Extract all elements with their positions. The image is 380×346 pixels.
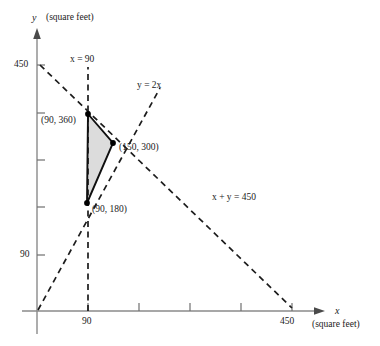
- y-axis-ticks: [37, 65, 45, 255]
- equation-label-x-equals-90: x = 90: [70, 55, 94, 65]
- x-axis-label: x: [335, 306, 339, 316]
- y-axis-unit-label: (square feet): [46, 13, 94, 23]
- y-tick-label-450: 450: [14, 60, 28, 70]
- x-axis-arrowhead: [314, 307, 325, 315]
- vertex-dot-90-180: [84, 200, 90, 206]
- x-axis-ticks: [88, 303, 292, 311]
- x-axis-unit-label: (square feet): [312, 320, 360, 330]
- vertex-label-150-300: (150, 300): [119, 143, 159, 153]
- figure-root: y (square feet) x (square feet) 450 90 9…: [0, 0, 380, 346]
- equation-label-x-plus-y-equals-450: x + y = 450: [212, 193, 256, 203]
- x-tick-label-90: 90: [82, 317, 92, 327]
- vertex-dot-150-300: [110, 140, 116, 146]
- y-tick-label-90: 90: [20, 250, 30, 260]
- vertex-label-90-360: (90, 360): [41, 116, 76, 126]
- coordinate-plot: [0, 0, 380, 346]
- vertex-label-90-180: (90, 180): [92, 205, 127, 215]
- equation-label-y-equals-2x: y = 2x: [137, 81, 161, 91]
- y-axis-label: y: [32, 13, 36, 23]
- x-tick-label-450: 450: [280, 317, 294, 327]
- y-axis-arrowhead: [33, 28, 41, 39]
- vertex-dot-90-360: [85, 111, 91, 117]
- constraint-line-x-plus-y-equals-450: [40, 65, 292, 308]
